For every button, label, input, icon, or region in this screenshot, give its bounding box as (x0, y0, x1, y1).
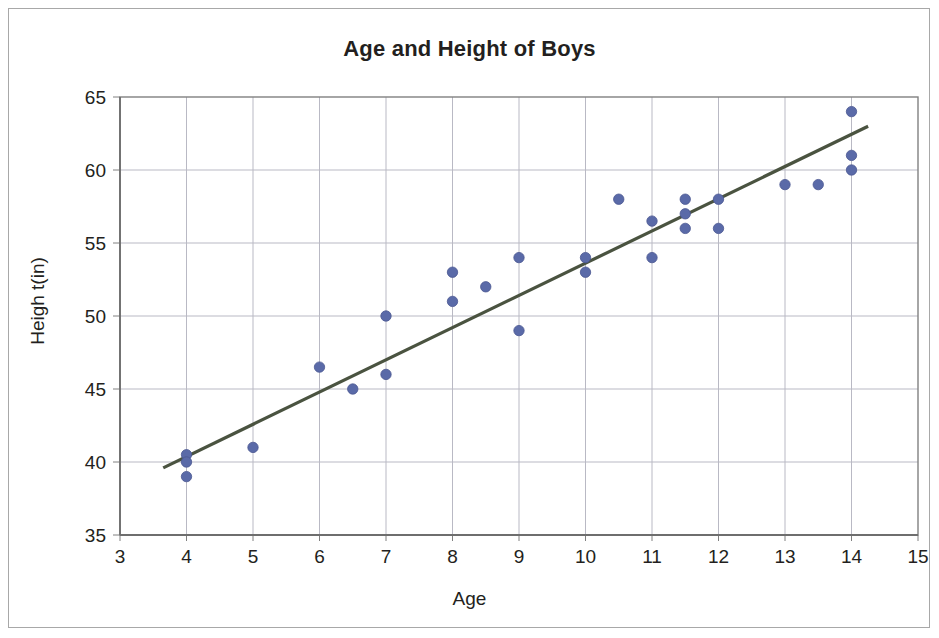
data-point (514, 325, 524, 335)
data-point (314, 362, 324, 372)
data-point (481, 282, 491, 292)
x-tick-label: 6 (314, 546, 325, 567)
data-point (614, 194, 624, 204)
x-tick-label: 11 (642, 546, 662, 567)
x-tick-label: 12 (708, 546, 729, 567)
trendline (163, 126, 868, 468)
data-point (248, 442, 258, 452)
data-point (846, 165, 856, 175)
y-tick-label: 65 (85, 87, 106, 108)
data-point (680, 194, 690, 204)
data-point (181, 471, 191, 481)
gridlines-group (120, 97, 918, 535)
data-point (647, 252, 657, 262)
x-tick-label: 9 (514, 546, 525, 567)
chart-figure: Age and Height of Boys Age Heigh t(in) 3… (0, 0, 939, 638)
x-tick-label: 7 (381, 546, 392, 567)
x-tick-label: 3 (115, 546, 126, 567)
y-tick-label: 50 (85, 306, 106, 327)
y-tick-label: 45 (85, 379, 106, 400)
x-tick-label: 8 (447, 546, 458, 567)
data-point (813, 179, 823, 189)
data-point (447, 267, 457, 277)
y-tick-label: 55 (85, 233, 106, 254)
x-tick-label: 5 (248, 546, 259, 567)
x-tick-label: 14 (841, 546, 863, 567)
data-point (846, 150, 856, 160)
data-point (514, 252, 524, 262)
x-tick-label: 15 (907, 546, 928, 567)
x-tick-label: 13 (774, 546, 795, 567)
x-tick-label: 10 (575, 546, 596, 567)
data-point (713, 223, 723, 233)
data-point (580, 267, 590, 277)
trendline-group (163, 126, 868, 468)
data-point (348, 384, 358, 394)
data-point (846, 106, 856, 116)
data-point (713, 194, 723, 204)
data-point (447, 296, 457, 306)
data-point (381, 369, 391, 379)
data-point (580, 252, 590, 262)
data-point (680, 209, 690, 219)
data-point (381, 311, 391, 321)
data-point (680, 223, 690, 233)
y-tick-label: 40 (85, 452, 106, 473)
x-tick-label: 4 (181, 546, 192, 567)
scatter-plot-canvas: 345678910111213141535404550556065 (0, 0, 939, 638)
data-point (780, 179, 790, 189)
tick-marks-group (113, 97, 918, 541)
data-point (181, 457, 191, 467)
y-tick-label: 60 (85, 160, 106, 181)
data-point (647, 216, 657, 226)
y-tick-label: 35 (85, 525, 106, 546)
